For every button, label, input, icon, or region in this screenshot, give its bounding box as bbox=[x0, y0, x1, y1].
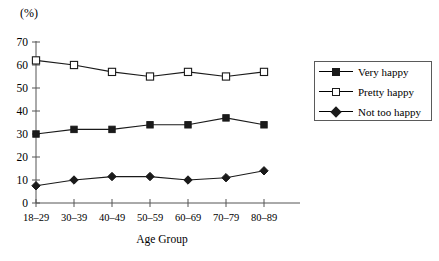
plot-svg: 01020304050607018–2930–3940–4950–5960–69… bbox=[0, 0, 320, 261]
legend-label-pretty-happy: Pretty happy bbox=[353, 86, 414, 98]
legend-key-filled-square-icon bbox=[319, 65, 353, 79]
happiness-by-age-line-chart: (%) 01020304050607018–2930–3940–4950–596… bbox=[0, 0, 439, 261]
data-point-marker bbox=[222, 174, 230, 182]
legend-label-very-happy: Very happy bbox=[353, 66, 408, 78]
x-tick-label: 30–39 bbox=[61, 212, 87, 223]
x-tick-label: 70–79 bbox=[213, 212, 239, 223]
legend-key-filled-diamond-icon bbox=[319, 105, 353, 119]
data-point-marker bbox=[146, 172, 154, 180]
x-tick-label: 40–49 bbox=[99, 212, 125, 223]
y-tick-label: 50 bbox=[17, 82, 29, 94]
y-tick-label: 60 bbox=[17, 59, 29, 71]
y-tick-label: 10 bbox=[17, 174, 29, 186]
y-tick-label: 70 bbox=[17, 36, 29, 48]
x-tick-label: 50–59 bbox=[137, 212, 163, 223]
data-point-marker bbox=[70, 176, 78, 184]
legend-label-not-too-happy: Not too happy bbox=[353, 106, 421, 118]
data-point-marker bbox=[223, 115, 229, 121]
data-point-marker bbox=[146, 73, 153, 80]
data-point-marker bbox=[70, 61, 77, 68]
x-tick-label: 80–89 bbox=[251, 212, 277, 223]
data-point-marker bbox=[184, 176, 192, 184]
y-tick-label: 30 bbox=[17, 128, 29, 140]
data-point-marker bbox=[222, 73, 229, 80]
x-tick-label: 60–69 bbox=[175, 212, 201, 223]
plot-area: 01020304050607018–2930–3940–4950–5960–69… bbox=[0, 0, 320, 261]
y-tick-label: 40 bbox=[17, 105, 29, 117]
y-tick-label: 0 bbox=[22, 197, 28, 209]
data-point-marker bbox=[108, 172, 116, 180]
data-point-marker bbox=[260, 167, 268, 175]
data-point-marker bbox=[109, 126, 115, 132]
data-point-marker bbox=[185, 122, 191, 128]
chart-legend: Very happy Pretty happy Not too happy bbox=[314, 61, 432, 121]
legend-item-very-happy: Very happy bbox=[315, 62, 431, 82]
legend-key-open-square-icon bbox=[319, 85, 353, 99]
data-point-marker bbox=[32, 182, 40, 190]
x-axis-title: Age Group bbox=[136, 233, 188, 246]
legend-item-pretty-happy: Pretty happy bbox=[315, 82, 431, 102]
data-point-marker bbox=[32, 57, 39, 64]
data-point-marker bbox=[108, 68, 115, 75]
y-tick-label: 20 bbox=[17, 151, 29, 163]
data-point-marker bbox=[71, 126, 77, 132]
x-tick-label: 18–29 bbox=[23, 212, 49, 223]
data-point-marker bbox=[33, 131, 39, 137]
legend-item-not-too-happy: Not too happy bbox=[315, 102, 431, 122]
data-point-marker bbox=[184, 68, 191, 75]
data-point-marker bbox=[147, 122, 153, 128]
data-point-marker bbox=[261, 122, 267, 128]
data-point-marker bbox=[260, 68, 267, 75]
